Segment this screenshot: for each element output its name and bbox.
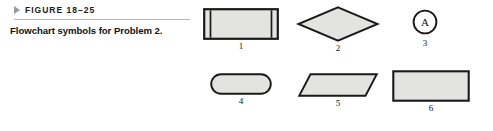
flowchart-symbols-grid: 1 2 A 3 xyxy=(196,0,493,131)
figure-number-label: FIGURE 18–25 xyxy=(25,5,95,15)
decision-symbol xyxy=(297,6,379,42)
shape-number-6: 6 xyxy=(392,103,470,114)
parallelogram-icon xyxy=(298,73,378,97)
predefined-process-symbol xyxy=(203,8,279,40)
shape-number-4: 4 xyxy=(210,96,272,107)
shape-cell-4: 4 xyxy=(210,73,272,107)
figure-caption-block: FIGURE 18–25 Flowchart symbols for Probl… xyxy=(0,0,196,131)
connector-circle-icon: A xyxy=(397,8,453,37)
figure-caption-text: Flowchart symbols for Problem 2. xyxy=(10,25,196,37)
input-output-symbol xyxy=(298,73,378,97)
terminal-symbol xyxy=(210,73,272,95)
process-rect-icon xyxy=(392,70,470,102)
shape-number-5: 5 xyxy=(298,98,378,109)
process-symbol xyxy=(392,70,470,102)
connector-letter: A xyxy=(421,16,429,28)
shape-cell-2: 2 xyxy=(297,6,379,54)
triangle-right-icon xyxy=(14,6,20,14)
shape-cell-3: A 3 xyxy=(397,8,453,49)
shape-number-3: 3 xyxy=(397,38,453,49)
shape-cell-5: 5 xyxy=(298,73,378,109)
figure-label-row: FIGURE 18–25 xyxy=(14,5,95,15)
caption-divider xyxy=(14,19,190,20)
shape-number-2: 2 xyxy=(297,43,379,54)
predefined-process-icon xyxy=(203,8,279,40)
shape-cell-1: 1 xyxy=(203,8,279,52)
decision-diamond-icon xyxy=(297,6,379,42)
shape-cell-6: 6 xyxy=(392,70,470,114)
figure-container: FIGURE 18–25 Flowchart symbols for Probl… xyxy=(0,0,493,131)
shape-number-1: 1 xyxy=(203,41,279,52)
terminal-rounded-rect-icon xyxy=(210,73,272,95)
connector-symbol: A xyxy=(397,8,453,37)
